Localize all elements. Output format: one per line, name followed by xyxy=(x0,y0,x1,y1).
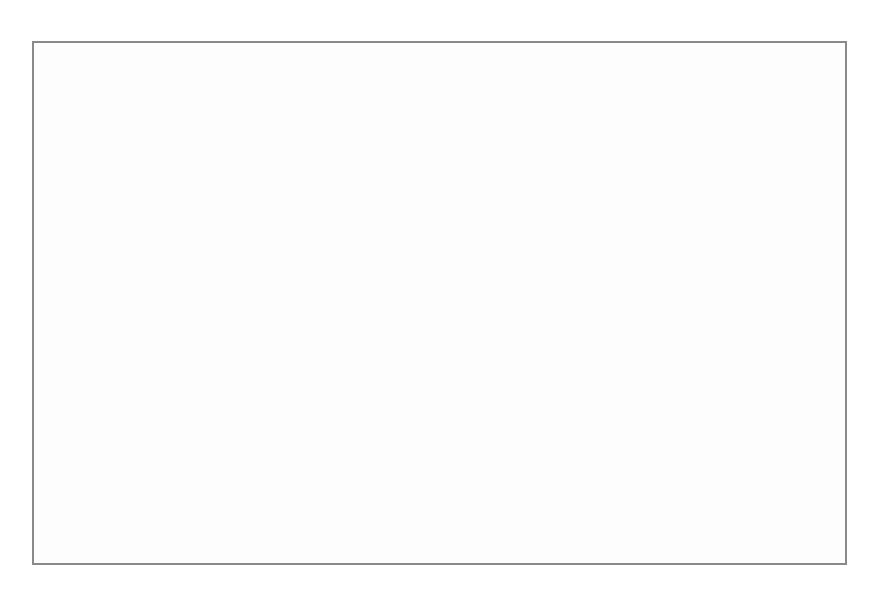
diagram-frame xyxy=(32,41,847,565)
network-graph xyxy=(34,43,849,567)
